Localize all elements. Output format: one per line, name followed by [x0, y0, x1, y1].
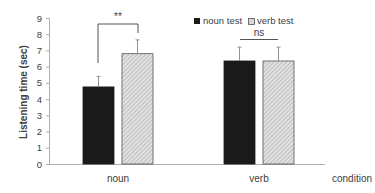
y-tick-label: 2 [37, 126, 42, 137]
significance-label: ** [114, 11, 122, 22]
legend: noun test verb test [194, 15, 294, 26]
y-axis-label: Listening time (sec) [18, 45, 29, 139]
significance-label: ns [254, 27, 265, 38]
bars [83, 40, 294, 164]
bar-noun-noun-test [83, 87, 114, 164]
y-tick-label: 8 [37, 29, 42, 40]
y-tick-label: 0 [37, 159, 42, 170]
x-axis-label: condition [332, 173, 372, 184]
bar-chart: Listening time (sec) 0123456789 ** ns no… [0, 0, 375, 193]
y-tick-label: 9 [37, 13, 42, 24]
legend-swatch-noun-test [194, 18, 200, 24]
y-tick-label: 4 [37, 94, 42, 105]
y-tick-label: 6 [37, 61, 42, 72]
legend-swatch-verb-test [249, 19, 255, 25]
y-axis-ticks: 0123456789 [37, 13, 50, 170]
legend-label-verb-test: verb test [257, 15, 294, 26]
x-category-verb: verb [249, 173, 269, 184]
y-tick-label: 3 [37, 110, 42, 121]
bar-noun-verb-test [122, 54, 153, 164]
y-tick-label: 7 [37, 45, 42, 56]
bar-verb-noun-test [224, 61, 255, 164]
y-tick-label: 5 [37, 77, 42, 88]
y-tick-label: 1 [37, 142, 42, 153]
significance-line-verb: ns [240, 27, 278, 40]
legend-label-noun-test: noun test [203, 15, 242, 26]
bar-verb-verb-test [263, 61, 294, 164]
x-category-noun: noun [107, 173, 129, 184]
